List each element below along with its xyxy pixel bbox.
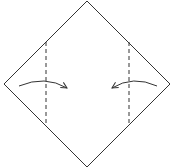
right-fold-arrow-icon bbox=[112, 81, 157, 88]
diagram-canvas bbox=[0, 0, 183, 168]
paper-square bbox=[4, 1, 170, 167]
origami-diagram bbox=[0, 0, 183, 168]
left-fold-arrow-icon bbox=[19, 81, 67, 88]
